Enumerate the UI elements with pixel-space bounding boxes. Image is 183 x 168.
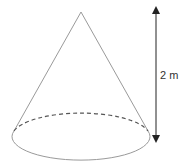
cone-left-side <box>14 12 81 131</box>
base-back-edge-dashed <box>14 113 148 131</box>
cone-right-side <box>81 12 148 131</box>
height-label: 2 m <box>160 69 178 81</box>
base-front-edge <box>12 131 150 160</box>
cone-diagram: 2 m <box>0 0 183 168</box>
